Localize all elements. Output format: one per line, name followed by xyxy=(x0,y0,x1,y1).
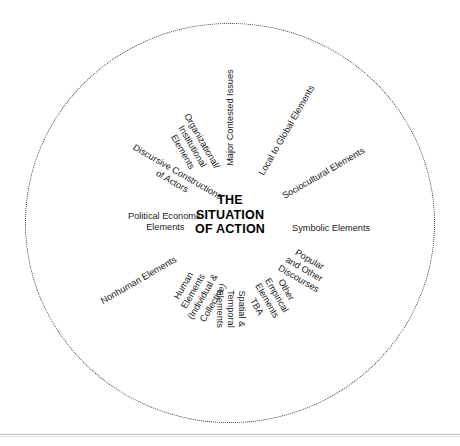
spoke-label-political-economic-elements: Political EconomicElements xyxy=(128,211,203,233)
center-line-1: THE xyxy=(160,193,300,208)
spoke-label-line-1: Spatial & Temporal xyxy=(225,290,247,328)
spoke-label-line-1: Symbolic Elements xyxy=(292,223,370,234)
spoke-label-symbolic-elements: Symbolic Elements xyxy=(292,223,370,234)
situational-map-diagram: THE SITUATION OF ACTION Major Contested … xyxy=(0,0,460,446)
spoke-label-line-1: Political Economic xyxy=(128,211,203,222)
page-edge-rule-shadow xyxy=(0,436,460,437)
spoke-label-line-1: Major Contested Issues xyxy=(224,69,235,166)
spoke-label-line-2: Elements xyxy=(128,222,203,233)
page-edge-rule xyxy=(0,434,460,435)
spoke-label-major-contested-issues: Major Contested Issues xyxy=(224,69,235,166)
